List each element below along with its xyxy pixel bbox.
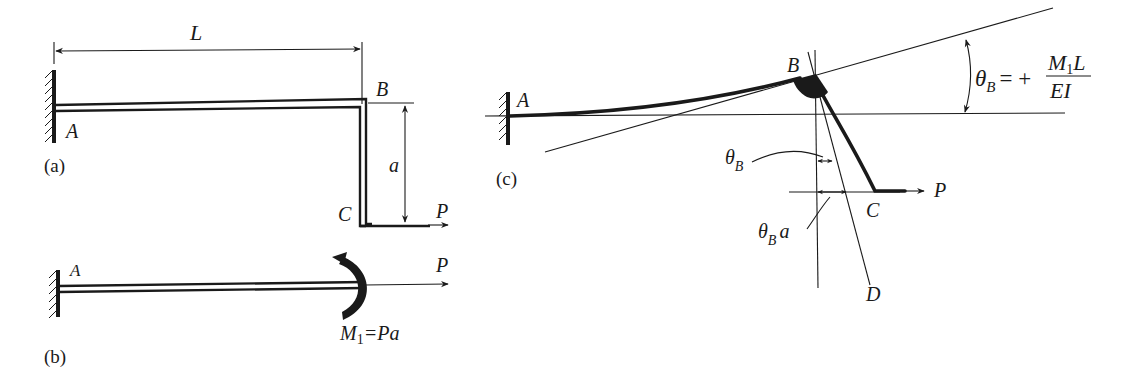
theta-B-a-leader — [807, 197, 830, 229]
label-P-b: P — [435, 254, 448, 276]
beam-inner-edge — [56, 107, 366, 226]
label-B-a: B — [376, 78, 388, 100]
label-P-a: P — [435, 200, 448, 222]
beam-b-bottom — [59, 288, 364, 292]
label-A-b: A — [69, 261, 81, 280]
caption-c: (c) — [496, 168, 517, 190]
beam-deflection-diagram: L P a B A C (a) P A — [0, 0, 1143, 375]
panel-a: L P a B A C (a) — [44, 20, 448, 226]
wall-hatching — [45, 70, 53, 142]
deflected-beam-AB — [510, 78, 800, 116]
label-D-c: D — [865, 283, 881, 305]
dimension-L-arrow — [56, 49, 360, 51]
formula-denominator: EI — [1049, 78, 1072, 103]
label-P-c: P — [933, 179, 946, 201]
formula-lhs: θB= + — [975, 66, 1031, 95]
beam-b-top — [59, 282, 364, 286]
wall-hatching-b — [49, 270, 57, 318]
load-P-arrow-b — [364, 284, 448, 285]
panel-c: P θB θBa θB= + M1L EI A B C D (c) — [485, 8, 1091, 305]
label-A-c: A — [515, 89, 530, 111]
label-L: L — [189, 20, 202, 45]
formula-numerator: M1L — [1047, 50, 1086, 77]
panel-b: P A M1=Pa (b) — [44, 252, 448, 368]
label-theta-B: θB — [725, 146, 744, 174]
label-A-a: A — [64, 120, 79, 142]
label-theta-B-a: θBa — [758, 220, 789, 248]
beam-outer-edge — [56, 99, 372, 224]
label-M1-b: M1=Pa — [339, 322, 399, 347]
theta-B-leader — [752, 152, 823, 162]
caption-a: (a) — [44, 155, 65, 177]
label-B-c: B — [787, 54, 799, 76]
label-a: a — [389, 154, 399, 176]
theta-B-angle-arc — [965, 40, 970, 112]
caption-b: (b) — [44, 346, 66, 368]
label-C-a: C — [338, 203, 352, 225]
label-C-c: C — [866, 199, 880, 221]
theta-B-formula: θB= + M1L EI — [975, 50, 1091, 103]
